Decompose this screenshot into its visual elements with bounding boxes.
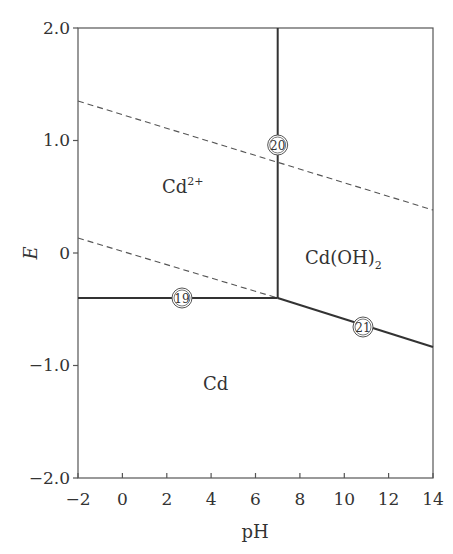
x-tick-label: 2 bbox=[161, 489, 172, 509]
x-axis-title: pH bbox=[241, 521, 268, 542]
y-tick-label: 1.0 bbox=[43, 130, 70, 150]
y-axis bbox=[73, 28, 78, 478]
annotation-19: 19 bbox=[172, 288, 192, 308]
x-tick-label: 6 bbox=[250, 489, 261, 509]
x-tick-label: 12 bbox=[378, 489, 400, 509]
y-tick-label: −1.0 bbox=[29, 355, 70, 375]
plot-frame bbox=[78, 28, 433, 478]
y-tick-label: −2.0 bbox=[29, 468, 70, 488]
x-tick-label: 0 bbox=[117, 489, 128, 509]
region-label-cdoh2: Cd(OH)2 bbox=[305, 247, 382, 272]
x-tick-label: 4 bbox=[206, 489, 217, 509]
annotation-19-label: 19 bbox=[174, 292, 189, 306]
annotation-20: 20 bbox=[268, 135, 288, 155]
region-label-cd: Cd bbox=[203, 373, 228, 394]
y-axis-title: E bbox=[20, 246, 41, 260]
x-tick-label: 8 bbox=[294, 489, 305, 509]
upper-water-stability-line bbox=[78, 101, 433, 210]
x-axis bbox=[78, 473, 433, 478]
y-tick-label: 2.0 bbox=[43, 18, 70, 38]
x-tick-label: 10 bbox=[333, 489, 355, 509]
pourbaix-diagram: 2.0 1.0 0 −1.0 −2.0 −2 0 2 4 6 8 10 12 1… bbox=[0, 0, 453, 554]
region-label-cd2plus: Cd2+ bbox=[162, 175, 204, 197]
annotation-21: 21 bbox=[353, 317, 373, 337]
y-tick-label: 0 bbox=[59, 243, 70, 263]
annotation-21-label: 21 bbox=[355, 321, 370, 335]
x-tick-label: 14 bbox=[422, 489, 444, 509]
x-tick-label: −2 bbox=[65, 489, 90, 509]
annotation-20-label: 20 bbox=[270, 139, 285, 153]
